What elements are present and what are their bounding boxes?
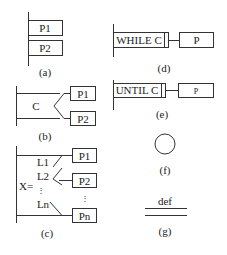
figure-f-circle: (f)	[155, 134, 175, 177]
block-p1-label: P1	[39, 22, 51, 34]
figure-a-sequence: P1 P2 (a)	[29, 12, 63, 79]
caption-e: (e)	[156, 108, 169, 121]
case-selector: X=	[19, 180, 33, 192]
case-branch-ellipsis: ⋮	[81, 194, 89, 203]
case-diag-1	[53, 156, 62, 168]
caption-b: (b)	[39, 130, 52, 143]
caption-f: (f)	[160, 164, 171, 177]
case-label-l2: L2	[37, 170, 49, 182]
case-diag-n	[50, 202, 62, 216]
while-body-label: P	[193, 34, 199, 46]
caption-g: (g)	[159, 225, 172, 238]
figure-b-selection: C P1 P2 (b)	[16, 86, 96, 143]
case-label-ln: Ln	[37, 198, 50, 210]
case-branch-p1-label: P1	[79, 150, 91, 162]
figure-d-while: WHILE C P (d)	[114, 24, 214, 75]
caption-c: (c)	[41, 227, 54, 240]
until-body-label: P	[194, 87, 199, 96]
while-condition-label: WHILE C	[116, 34, 162, 46]
caption-a: (a)	[39, 66, 52, 79]
until-condition-label: UNTIL C	[116, 84, 159, 96]
def-label: def	[158, 195, 172, 207]
condition-chevron	[54, 94, 64, 119]
case-branch-p2-label: P2	[79, 175, 91, 187]
block-p2-label: P2	[39, 42, 51, 54]
branch-p2-label: P2	[77, 113, 89, 125]
diagram-canvas: P1 P2 (a) C P1 P2 (b) L1 L2 ⋮ Ln X=	[0, 0, 227, 255]
figure-e-until: UNTIL C P (e)	[114, 80, 214, 121]
case-label-ellipsis: ⋮	[37, 186, 45, 195]
case-branch-pn-label: Pn	[79, 210, 91, 222]
caption-d: (d)	[158, 62, 171, 75]
case-diag-2	[53, 168, 62, 185]
figure-c-case: L1 L2 ⋮ Ln X= P1 P2 ⋮ Pn (c)	[16, 146, 97, 240]
condition-label: C	[32, 100, 39, 112]
case-label-l1: L1	[37, 156, 49, 168]
circle-shape	[155, 134, 175, 154]
branch-p1-label: P1	[77, 88, 89, 100]
figure-g-definition: def (g)	[145, 195, 187, 238]
